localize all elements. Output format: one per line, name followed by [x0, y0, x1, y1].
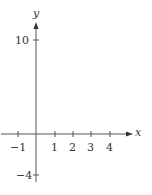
coordinate-plane — [0, 0, 152, 195]
y-axis-label: y — [33, 8, 39, 19]
y-tick-label: 10 — [15, 35, 29, 46]
y-tick-label: −4 — [16, 170, 32, 181]
x-tick-label: 4 — [106, 142, 113, 153]
x-tick-label: −1 — [10, 142, 26, 153]
x-axis-label: x — [135, 127, 141, 138]
x-tick-label: 3 — [87, 142, 94, 153]
x-tick-label: 2 — [69, 142, 76, 153]
y-axis-arrow-icon — [34, 22, 39, 29]
x-tick-label: 1 — [51, 142, 58, 153]
x-axis-arrow-icon — [126, 132, 133, 137]
